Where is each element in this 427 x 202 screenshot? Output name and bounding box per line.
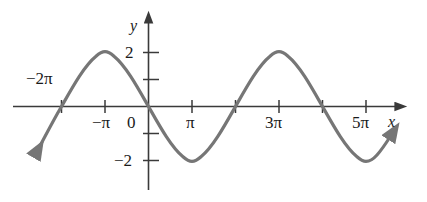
coordinate-plane-svg <box>0 0 427 202</box>
x-tick-label-3pi: 3π <box>265 114 282 131</box>
y-tick-label-2: 2 <box>125 44 134 61</box>
x-tick-label-neg-2pi: −2π <box>26 70 53 87</box>
x-tick-label-pi: π <box>186 114 195 131</box>
x-tick-label-neg-pi: −π <box>92 114 110 131</box>
sine-graph-figure: y x −2π −π 0 π 3π 5π 2 −2 <box>0 0 427 202</box>
x-tick-label-5pi: 5π <box>352 114 369 131</box>
x-axis-label: x <box>388 114 395 130</box>
y-tick-label-neg-2: −2 <box>114 152 132 169</box>
x-tick-label-zero: 0 <box>127 114 136 131</box>
y-axis-label: y <box>130 18 137 34</box>
